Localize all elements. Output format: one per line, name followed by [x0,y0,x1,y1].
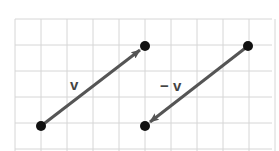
point-v-start [36,121,46,131]
point-v-end [140,41,150,51]
grid-lines [15,19,275,151]
point-neg-v-start [243,41,253,51]
grid-canvas: v − v [0,0,279,151]
label-v: v [70,76,79,93]
vector-diagram: v − v [0,0,279,151]
label-neg-v: − v [160,77,182,94]
point-neg-v-end [140,121,150,131]
vector-v-arrow [41,50,140,126]
